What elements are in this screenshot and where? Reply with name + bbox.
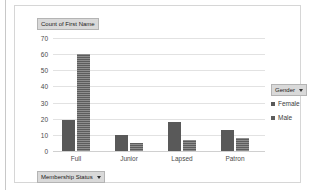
value-field-button-label: Count of First Name — [41, 19, 95, 29]
y-axis-tick-label: 10 — [41, 132, 48, 139]
y-axis-tick-label: 50 — [41, 67, 48, 74]
bar-female[interactable] — [221, 130, 234, 151]
legend-item-label: Female — [278, 100, 300, 107]
y-axis-tick-label: 40 — [41, 83, 48, 90]
bars-layer: Full Junior Lapsed Patron — [53, 38, 265, 151]
chart-object-frame[interactable]: Count of First Name 70 60 50 40 30 20 — [14, 5, 301, 183]
pivot-chart-screenshot: Count of First Name 70 60 50 40 30 20 — [0, 0, 313, 190]
bar-female[interactable] — [115, 135, 128, 151]
y-axis-tick-label: 30 — [41, 99, 48, 106]
bar-male[interactable] — [130, 143, 143, 151]
x-axis-tick-label: Junior — [106, 155, 152, 162]
bar-male[interactable] — [77, 54, 90, 151]
legend-item-label: Male — [278, 114, 292, 121]
x-axis-baseline: 0 — [53, 151, 265, 152]
chevron-down-icon[interactable] — [97, 176, 101, 179]
category-field-button[interactable]: Membership Status — [37, 171, 105, 183]
chart-legend: Female Male — [271, 100, 300, 121]
legend-swatch-icon — [271, 102, 275, 106]
category-field-button-label: Membership Status — [41, 172, 93, 182]
bar-female[interactable] — [168, 122, 181, 151]
plot-area: 70 60 50 40 30 20 10 0 — [53, 38, 265, 151]
y-axis-tick-label: 60 — [41, 51, 48, 58]
bar-female[interactable] — [62, 120, 75, 151]
y-axis-tick-label: 0 — [44, 148, 48, 155]
bar-male[interactable] — [183, 140, 196, 151]
chevron-down-icon[interactable] — [299, 89, 303, 92]
legend-swatch-icon — [271, 116, 275, 120]
legend-field-button-label: Gender — [275, 85, 295, 95]
legend-field-button[interactable]: Gender — [271, 84, 307, 96]
x-axis-tick-label: Full — [53, 155, 99, 162]
x-axis-tick-label: Patron — [212, 155, 258, 162]
bar-male[interactable] — [236, 138, 249, 151]
x-axis-tick-label: Lapsed — [159, 155, 205, 162]
legend-item-female[interactable]: Female — [271, 100, 300, 107]
y-axis-tick-label: 20 — [41, 115, 48, 122]
legend-item-male[interactable]: Male — [271, 114, 300, 121]
worksheet-column-divider — [5, 0, 6, 190]
y-axis-tick-label: 70 — [41, 35, 48, 42]
value-field-button[interactable]: Count of First Name — [37, 18, 99, 30]
